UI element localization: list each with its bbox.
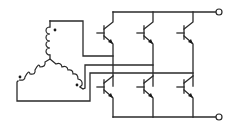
dc-positive-terminal [216, 9, 222, 15]
polarity-dot-b [19, 76, 22, 79]
polarity-dot-c [76, 84, 79, 87]
transistor-q2 [137, 12, 153, 86]
inverter-motor-schematic [0, 0, 238, 128]
polarity-dot-a [54, 29, 57, 32]
transistor-q3 [177, 12, 193, 86]
transistor-q6 [177, 76, 193, 117]
winding-c [50, 59, 153, 89]
transistor-q4 [97, 76, 113, 117]
transistor-q5 [137, 76, 153, 117]
winding-a [46, 21, 113, 59]
wye-windings [17, 21, 193, 101]
transistor-q1 [97, 12, 113, 86]
lead-phase-c [17, 73, 193, 101]
dc-negative-terminal [216, 114, 222, 120]
lead-phase-b [80, 65, 153, 89]
inverter-leg-3 [177, 12, 193, 117]
